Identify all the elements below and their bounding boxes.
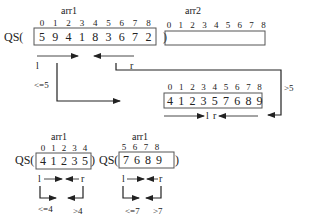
partitioned-group: 012345678 412357689 l r	[164, 82, 263, 121]
array-cell: 2	[145, 30, 151, 44]
array-cell: 3	[72, 154, 78, 168]
top-arr2-group: arr2 012345678	[165, 5, 266, 45]
array-index: 8	[257, 82, 262, 92]
array-index: 3	[72, 143, 77, 153]
array-index: 6	[133, 142, 138, 152]
array-index: 6	[120, 18, 125, 28]
array-index: 5	[106, 18, 111, 28]
array-index: 2	[190, 20, 195, 30]
array-index: 3	[80, 18, 85, 28]
array-cell: 9	[156, 153, 162, 167]
partitioned-r-pointer: r	[213, 110, 217, 121]
array-index: 6	[238, 20, 243, 30]
array-index: 5	[224, 82, 229, 92]
array-cell: 9	[257, 94, 263, 108]
array-index: 7	[133, 18, 138, 28]
array-cell: 3	[106, 30, 112, 44]
bottom-left-le-arrow	[40, 186, 56, 198]
bottom-left-qs-open: QS(	[15, 153, 34, 167]
array-cell: 6	[119, 30, 125, 44]
bottom-right-qs-open: QS(	[99, 153, 118, 167]
array-index: 0	[41, 143, 46, 153]
array-cell: 2	[61, 154, 67, 168]
array-index: 5	[122, 142, 127, 152]
array-index: 1	[51, 143, 56, 153]
array-cell: 1	[51, 154, 57, 168]
bottom-left-le-label: <=4	[38, 204, 53, 214]
array-cell: 8	[92, 30, 98, 44]
array-index: 0	[167, 20, 172, 30]
array-cell: 5	[82, 154, 88, 168]
array-index: 8	[261, 20, 266, 30]
top-qs-call-open: QS(	[4, 30, 23, 44]
quicksort-diagram: arr1 012345678 QS( 594183672 ) l r arr2 …	[0, 0, 310, 223]
array-index: 3	[202, 20, 207, 30]
array-index: 2	[66, 18, 71, 28]
array-index: 0	[168, 82, 173, 92]
right-condition-label: >5	[284, 83, 294, 93]
bottom-right-gt-label: >7	[153, 206, 163, 216]
bottom-left-gt-arrow	[68, 186, 83, 198]
array-index: 5	[226, 20, 231, 30]
top-arr1-label: arr1	[61, 5, 77, 16]
bottom-right-r-pointer: r	[159, 173, 163, 184]
array-cell: 7	[223, 94, 229, 108]
bottom-right-gt-arrow	[146, 186, 161, 198]
partitioned-values: 412357689	[167, 94, 263, 108]
bottom-right-l-pointer: l	[122, 173, 125, 184]
array-index: 2	[62, 143, 67, 153]
array-cell: 2	[189, 94, 195, 108]
array-cell: 7	[123, 153, 129, 167]
bottom-right-qs-close: )	[175, 153, 179, 167]
array-index: 7	[249, 20, 254, 30]
top-arr2-indices: 012345678	[167, 20, 266, 30]
array-index: 8	[155, 142, 160, 152]
top-arr1-group: arr1 012345678 QS( 594183672 ) l r	[4, 5, 167, 71]
array-index: 4	[93, 18, 98, 28]
array-cell: 1	[178, 94, 184, 108]
partitioned-l-pointer: l	[206, 110, 209, 121]
top-r-pointer: r	[130, 60, 134, 71]
bottom-left-label: arr1	[51, 131, 67, 142]
array-index: 1	[53, 18, 58, 28]
bottom-right-label: arr1	[132, 131, 148, 142]
bottom-left-group: arr1 01234 QS( 41235 ) l r <=4 >4	[15, 131, 95, 216]
array-cell: 4	[66, 30, 72, 44]
top-l-pointer: l	[36, 60, 39, 71]
array-cell: 9	[52, 30, 58, 44]
array-index: 0	[40, 18, 45, 28]
array-cell: 7	[132, 30, 138, 44]
bottom-left-qs-close: )	[91, 153, 95, 167]
array-cell: 1	[79, 30, 85, 44]
array-index: 3	[201, 82, 206, 92]
array-cell: 5	[39, 30, 45, 44]
partitioned-indices: 012345678	[168, 82, 263, 92]
array-cell: 4	[167, 94, 173, 108]
array-cell: 8	[245, 94, 251, 108]
bottom-right-le-label: <=7	[125, 206, 140, 216]
bottom-right-indices: 5678	[122, 142, 160, 152]
array-index: 6	[235, 82, 240, 92]
array-cell: 8	[145, 153, 151, 167]
array-index: 1	[179, 82, 184, 92]
array-index: 4	[214, 20, 219, 30]
array-index: 4	[213, 82, 218, 92]
top-arr2-label: arr2	[185, 5, 201, 16]
array-cell: 6	[234, 94, 240, 108]
top-arr1-values: 594183672	[39, 30, 151, 44]
array-index: 8	[146, 18, 151, 28]
bottom-left-indices: 01234	[41, 143, 88, 153]
bottom-right-values: 7689	[123, 153, 162, 167]
bottom-left-r-pointer: r	[81, 173, 85, 184]
bottom-left-gt-label: >4	[73, 206, 83, 216]
array-index: 7	[144, 142, 149, 152]
array-index: 4	[83, 143, 88, 153]
left-condition-label: <=5	[34, 80, 49, 90]
array-cell: 3	[201, 94, 207, 108]
top-arr2-box	[165, 31, 265, 45]
array-cell: 6	[134, 153, 140, 167]
bottom-right-le-arrow	[123, 186, 139, 198]
bottom-right-group: arr1 5678 QS( 7689 ) l r <=7 >7	[99, 131, 179, 216]
array-index: 1	[179, 20, 184, 30]
array-cell: 5	[212, 94, 218, 108]
